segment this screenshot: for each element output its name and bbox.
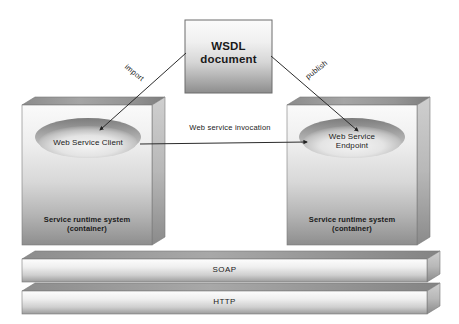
wsdl-document-label: WSDL document xyxy=(185,40,272,66)
soap-slab-top-face xyxy=(22,251,440,259)
wsdl-document-label-line1: WSDL xyxy=(185,40,272,53)
endpoint-container-top-face xyxy=(287,97,430,105)
endpoint-container-side-face xyxy=(417,97,430,245)
endpoint-container-caption-line2: (container) xyxy=(287,225,417,234)
client-ellipse-label: Web Service Client xyxy=(39,138,137,147)
http-slab-top-face xyxy=(22,283,440,291)
soap-layer-label: SOAP xyxy=(22,265,427,274)
diagram-canvas: WSDL document Web Service Client Service… xyxy=(0,0,459,324)
client-container-top-face xyxy=(22,97,165,105)
client-container-caption: Service runtime system (container) xyxy=(22,216,152,233)
client-container-caption-line2: (container) xyxy=(22,225,152,234)
client-ellipse-label-line1: Web Service Client xyxy=(39,138,137,147)
client-container-side-face xyxy=(152,97,165,245)
endpoint-ellipse-label: Web Service Endpoint xyxy=(303,132,401,150)
endpoint-ellipse-label-line2: Endpoint xyxy=(303,141,401,150)
endpoint-container-caption: Service runtime system (container) xyxy=(287,216,417,233)
wsdl-document-label-line2: document xyxy=(185,53,272,66)
invocation-arrow-label: Web service invocation xyxy=(165,124,295,133)
endpoint-ellipse-label-line1: Web Service xyxy=(303,132,401,141)
http-layer-label: HTTP xyxy=(22,297,427,306)
